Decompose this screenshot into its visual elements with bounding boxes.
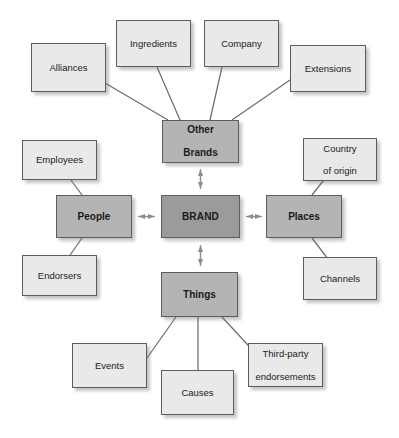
- diagram-canvas: Alliances Ingredients Company Extensions…: [0, 0, 399, 438]
- node-things-label: Things: [162, 289, 237, 301]
- node-employees[interactable]: Employees: [22, 140, 97, 180]
- third-party-line-1: Third-party: [252, 348, 319, 359]
- node-brand[interactable]: BRAND: [161, 195, 240, 238]
- node-third-party-endorsements[interactable]: Third-party endorsements: [248, 343, 323, 387]
- node-other-brands-label: Other Brands: [163, 124, 238, 159]
- node-company-label: Company: [205, 38, 278, 49]
- node-third-party-endorsements-label: Third-party endorsements: [249, 348, 322, 382]
- node-causes[interactable]: Causes: [161, 370, 234, 415]
- node-other-brands[interactable]: Other Brands: [162, 120, 239, 163]
- node-things[interactable]: Things: [161, 272, 238, 317]
- node-brand-label: BRAND: [162, 211, 239, 223]
- node-extensions[interactable]: Extensions: [290, 45, 366, 92]
- node-channels[interactable]: Channels: [303, 257, 377, 300]
- node-country-of-origin[interactable]: Country of origin: [303, 138, 377, 181]
- node-channels-label: Channels: [304, 273, 376, 284]
- third-party-line-2: endorsements: [252, 371, 319, 382]
- node-people-label: People: [57, 211, 131, 223]
- node-country-of-origin-label: Country of origin: [304, 143, 376, 177]
- node-causes-label: Causes: [162, 387, 233, 398]
- node-events-label: Events: [73, 360, 146, 371]
- node-alliances-label: Alliances: [32, 62, 105, 73]
- node-ingredients[interactable]: Ingredients: [116, 20, 191, 67]
- country-of-origin-line-2: of origin: [307, 165, 373, 176]
- node-places[interactable]: Places: [266, 195, 342, 238]
- country-of-origin-line-1: Country: [307, 143, 373, 154]
- other-brands-line-2: Brands: [166, 147, 235, 159]
- other-brands-line-1: Other: [166, 124, 235, 136]
- node-alliances[interactable]: Alliances: [31, 43, 106, 92]
- node-endorsers-label: Endorsers: [23, 270, 96, 281]
- node-company[interactable]: Company: [204, 20, 279, 67]
- leaf-connectors-things: [147, 317, 259, 370]
- node-employees-label: Employees: [23, 154, 96, 165]
- node-people[interactable]: People: [56, 195, 132, 238]
- node-ingredients-label: Ingredients: [117, 38, 190, 49]
- node-extensions-label: Extensions: [291, 63, 365, 74]
- leaf-connectors-other-brands: [105, 67, 290, 120]
- node-endorsers[interactable]: Endorsers: [22, 255, 97, 296]
- node-events[interactable]: Events: [72, 343, 147, 388]
- node-places-label: Places: [267, 211, 341, 223]
